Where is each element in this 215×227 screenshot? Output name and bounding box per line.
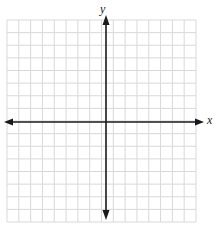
y-axis-arrow-down-icon xyxy=(103,210,110,220)
coordinate-plane xyxy=(0,0,215,227)
x-axis-arrow-right-icon xyxy=(195,119,204,126)
x-axis-label: x xyxy=(207,114,212,126)
y-axis-label: y xyxy=(100,3,105,15)
x-axis-arrow-left-icon xyxy=(4,119,13,126)
grid-lines xyxy=(7,20,196,222)
